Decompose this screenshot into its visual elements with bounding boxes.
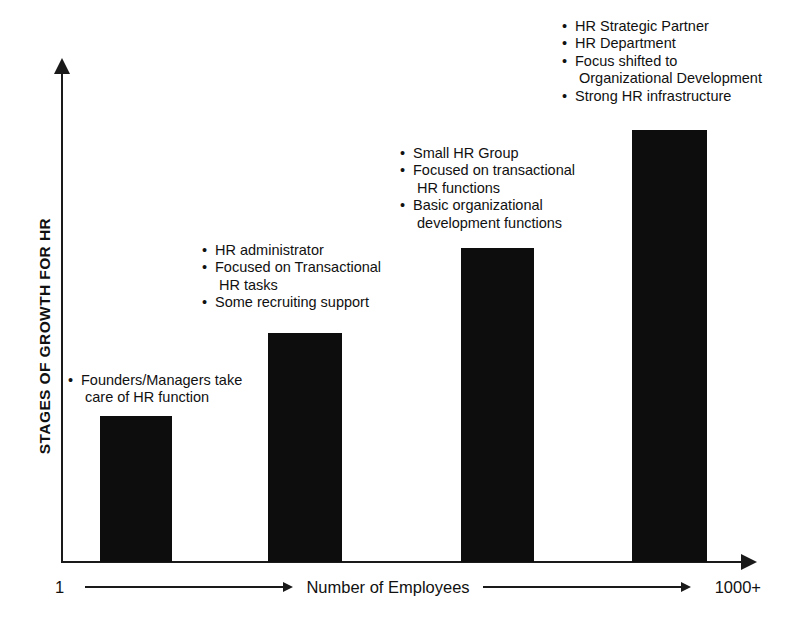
annotation-block-stage-1: Founders/Managers takecare of HR functio…	[68, 372, 242, 407]
annotation-block-stage-2: HR administratorFocused on Transactional…	[202, 242, 381, 312]
bar-stage-1	[100, 416, 172, 562]
x-axis-left-arrow-icon	[85, 581, 293, 593]
annotation-bullet-continuation: HR functions	[400, 180, 575, 197]
annotation-bullet: Focused on transactional	[400, 162, 575, 179]
annotation-bullet: HR Department	[562, 35, 762, 52]
annotation-bullet-continuation: care of HR function	[68, 389, 242, 406]
annotation-block-stage-3: Small HR GroupFocused on transactionalHR…	[400, 145, 575, 232]
annotation-bullet-continuation: development functions	[400, 215, 575, 232]
annotation-bullet: Basic organizational	[400, 197, 575, 214]
annotation-bullet: Some recruiting support	[202, 294, 381, 311]
annotation-bullet: HR Strategic Partner	[562, 18, 762, 35]
y-axis-line	[61, 72, 63, 563]
x-axis-end-label: 1000+	[695, 578, 761, 597]
bar-stage-3	[461, 248, 534, 562]
annotation-bullet: Focus shifted to	[562, 53, 762, 70]
annotation-bullet: Small HR Group	[400, 145, 575, 162]
annotation-bullet: Focused on Transactional	[202, 259, 381, 276]
annotation-bullet: Founders/Managers take	[68, 372, 242, 389]
y-axis-arrowhead-icon	[54, 58, 70, 74]
annotation-bullet-continuation: HR tasks	[202, 277, 381, 294]
annotation-bullet-continuation: Organizational Development	[562, 70, 762, 87]
x-axis-arrowhead-icon	[741, 554, 757, 570]
annotation-bullet: HR administrator	[202, 242, 381, 259]
bar-stage-2	[268, 333, 342, 562]
chart-canvas: STAGES OF GROWTH FOR HR Founders/Manager…	[0, 0, 795, 635]
x-axis-caption: 1 Number of Employees 1000+	[55, 574, 761, 600]
y-axis-title: STAGES OF GROWTH FOR HR	[36, 156, 54, 516]
annotation-block-stage-4: HR Strategic PartnerHR DepartmentFocus s…	[562, 18, 762, 105]
annotation-bullet: Strong HR infrastructure	[562, 88, 762, 105]
x-axis-right-arrow-icon	[483, 581, 691, 593]
x-axis-title: Number of Employees	[297, 578, 478, 597]
x-axis-start-label: 1	[55, 578, 81, 597]
bar-stage-4	[632, 130, 707, 562]
